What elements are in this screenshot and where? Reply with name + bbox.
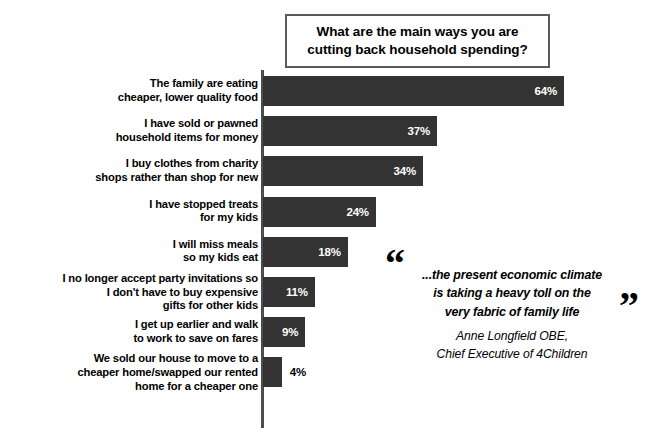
- chart-title-box: What are the main ways you are cutting b…: [285, 14, 550, 68]
- bar-category-label: I will miss meals so my kids eat: [18, 238, 258, 265]
- bar[interactable]: 34%: [263, 156, 423, 186]
- bar[interactable]: 9%: [263, 317, 305, 347]
- bar-category-label: We sold our house to move to a cheaper h…: [18, 352, 258, 393]
- bar[interactable]: 18%: [263, 237, 348, 267]
- bar-value-label: 18%: [318, 246, 340, 258]
- bar-value-label: 37%: [408, 125, 430, 137]
- bar-category-label: I no longer accept party invitations so …: [18, 272, 258, 313]
- bar-row[interactable]: The family are eating cheaper, lower qua…: [0, 76, 656, 106]
- bar-category-label: I have stopped treats for my kids: [18, 198, 258, 225]
- bar-row[interactable]: I have stopped treats for my kids24%: [0, 197, 656, 227]
- quote-text: ...the present economic climate is takin…: [397, 266, 627, 321]
- bar-category-label: I get up earlier and walk to work to sav…: [18, 319, 258, 346]
- pull-quote: “ ...the present economic climate is tak…: [383, 248, 648, 363]
- infographic-root: What are the main ways you are cutting b…: [0, 0, 656, 444]
- bar-category-label: I have sold or pawned household items fo…: [18, 118, 258, 145]
- bar-category-label: I buy clothes from charity shops rather …: [18, 158, 258, 185]
- bar-value-label: 64%: [535, 85, 557, 97]
- bar-row[interactable]: I buy clothes from charity shops rather …: [0, 156, 656, 186]
- bar[interactable]: 37%: [263, 116, 437, 146]
- bar-value-label: 9%: [282, 326, 298, 338]
- bar-row[interactable]: I have sold or pawned household items fo…: [0, 116, 656, 146]
- bar-value-label: 11%: [286, 286, 308, 298]
- bar[interactable]: 11%: [263, 277, 315, 307]
- page-title: What are the main ways you are cutting b…: [287, 23, 548, 59]
- bar[interactable]: 64%: [263, 76, 564, 106]
- bar-value-label: 24%: [346, 206, 368, 218]
- bar[interactable]: 24%: [263, 197, 376, 227]
- quote-attribution: Anne Longfield OBE, Chief Executive of 4…: [397, 328, 627, 363]
- bar-category-label: The family are eating cheaper, lower qua…: [18, 77, 258, 104]
- bar[interactable]: [263, 357, 282, 387]
- bar-value-label: 34%: [393, 165, 415, 177]
- bar-value-label: 4%: [290, 366, 306, 378]
- quote-close-mark: ”: [619, 286, 639, 326]
